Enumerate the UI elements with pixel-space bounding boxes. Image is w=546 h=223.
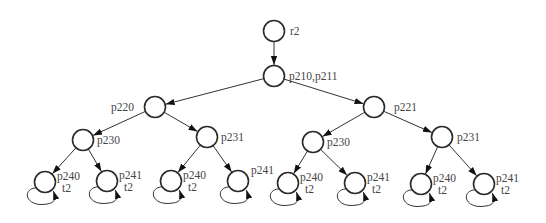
state-sublabel: t2 [438,184,447,196]
state-node-l3: p240t2 [161,169,207,193]
state-node-l7: p240t2 [411,172,457,196]
edge-p220-to-p230a [93,111,145,135]
state-circle [161,171,182,192]
edge-p210-to-p220 [166,79,264,105]
state-node-p231b: p231 [432,127,481,148]
state-label: p221 [394,101,417,114]
edge-p221-to-p231b [384,111,432,132]
state-circle [264,21,285,42]
state-circle [474,174,495,195]
edge-p210-to-p221 [284,79,363,104]
state-label: p231 [221,131,244,144]
edge-p231b-to-l7 [425,147,437,174]
state-circle [278,173,299,194]
state-circle [145,97,166,118]
state-circle [411,174,432,195]
state-label: p231 [457,131,480,144]
state-circle [303,132,324,153]
state-circle [197,127,218,148]
edge-p231a-to-l4 [213,146,232,172]
edge-p220-to-p231a [164,112,197,131]
state-circle [35,172,56,193]
state-label: p210,p211 [289,70,338,83]
state-node-l8: p241t2 [474,172,520,196]
state-sublabel: t2 [372,183,381,195]
state-node-l6: p241t2 [345,171,391,195]
state-node-l5: p240t2 [278,171,324,195]
state-sublabel: t2 [305,183,314,195]
state-sublabel: t2 [124,181,133,193]
state-label: p230 [327,136,350,149]
state-node-l4: p241 [228,164,275,192]
state-sublabel: t2 [62,182,71,194]
edge-p221-to-p230b [323,112,365,136]
state-node-p210: p210,p211 [264,66,338,87]
state-circle [345,173,366,194]
state-node-p231a: p231 [197,127,245,148]
state-circle [73,130,94,151]
state-tree-diagram: r2p210,p211p220p221p230p231p230p231p240t… [0,0,546,223]
state-label: p230 [97,134,120,147]
edge-p230b-to-l6 [321,149,348,175]
state-label: p241 [251,164,274,177]
state-circle [432,127,453,148]
state-circle [228,171,249,192]
state-node-p230a: p230 [73,130,121,151]
state-sublabel: t2 [501,184,510,196]
nodes-layer: r2p210,p211p220p221p230p231p230p231p240t… [35,21,520,197]
state-node-l1: p240t2 [35,170,81,194]
state-circle [364,97,385,118]
state-label: p220 [111,101,134,114]
state-circle [264,66,285,87]
state-sublabel: t2 [188,181,197,193]
edge-p230a-to-l2 [88,149,101,171]
state-circle [97,171,118,192]
state-node-r2: r2 [264,21,300,42]
state-label: r2 [290,25,300,37]
state-node-l2: p241t2 [97,169,143,193]
